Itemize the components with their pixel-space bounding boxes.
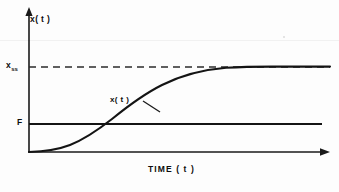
x-axis-group: [28, 148, 330, 156]
y-axis-label: x( t ): [30, 15, 50, 24]
steady-state-tick-label: xss: [6, 61, 18, 72]
force-tick-label: F: [17, 118, 23, 127]
x-axis-arrowhead: [320, 148, 330, 156]
y-axis-group: [25, 7, 32, 152]
step-response-curve: [29, 67, 330, 152]
step-response-figure: x( t ) TIME ( t ) xss F x( t ): [0, 0, 339, 192]
steady-state-subscript: ss: [11, 66, 18, 72]
curve-label-leader-line: [143, 101, 160, 112]
curve-annotation-label: x( t ): [110, 96, 129, 104]
x-axis-label: TIME ( t ): [148, 165, 195, 174]
